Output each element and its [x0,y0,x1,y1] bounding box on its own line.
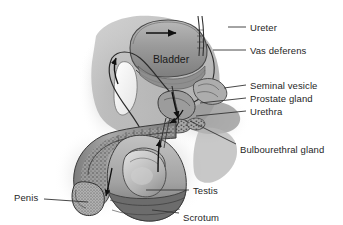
label-prostate-gland: Prostate gland [250,94,313,104]
leader-line-seminal-vesicle [224,85,246,88]
figure-canvas: Bladder Ureter Vas deferens Seminal vesi… [0,0,343,225]
label-testis: Testis [193,186,218,196]
label-seminal-vesicle: Seminal vesicle [250,81,318,91]
label-bulbourethral-gland: Bulbourethral gland [240,145,324,155]
label-ureter: Ureter [250,23,277,33]
label-vas-deferens: Vas deferens [250,46,306,56]
label-penis: Penis [14,193,38,203]
label-urethra: Urethra [250,107,282,117]
label-bladder: Bladder [153,53,189,65]
anatomy-illustration [0,0,343,225]
label-scrotum: Scrotum [183,213,219,223]
